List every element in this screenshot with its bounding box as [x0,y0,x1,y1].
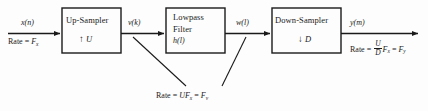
input-rate-subscript: x [36,41,38,47]
output-rate-numerator: U [374,40,381,48]
intermediate-rate-annotation: Rate = UFx = Fv [156,92,208,101]
signal-label-after-upsampler: v(k) [128,19,140,27]
output-rate-denominator: D [374,48,381,57]
output-rate-fraction: UD [374,40,381,56]
output-rate-label: Rate = [350,45,373,54]
signal-label-output: y(m) [350,19,365,27]
down-arrow-icon: ↓ [298,34,303,44]
intermediate-rate-equals: = [192,91,201,100]
intermediate-rate-subscript2: v [206,95,208,101]
up-arrow-icon: ↑ [79,34,84,44]
upsampler-factor-value: U [86,34,92,44]
signal-label-after-filter: w(l) [236,19,249,27]
signal-label-input: x(n) [21,19,34,27]
downsampler-factor: ↓ D [298,35,311,45]
intermediate-rate-label: Rate = [156,91,179,100]
sample-rate-conversion-diagram: Up-Sampler ↑ U Lowpass Filter h(l) Down-… [0,0,428,111]
upsampler-factor: ↑ U [79,35,92,45]
input-rate-annotation: Rate = Fx [8,38,38,47]
lowpass-title-line1: Lowpass [173,13,204,22]
intermediate-rate-value: UF [179,91,190,100]
downsampler-title: Down-Sampler [275,16,328,25]
input-rate-label: Rate = [8,37,31,46]
lowpass-impulse-response: h(l) [173,37,185,45]
upsampler-title: Up-Sampler [66,16,109,25]
output-rate-annotation: Rate = UDFx = Fy [350,40,406,56]
output-rate-subscript2: y [403,48,405,54]
downsampler-factor-value: D [305,34,311,44]
lowpass-title-line2: Filter [173,25,192,34]
